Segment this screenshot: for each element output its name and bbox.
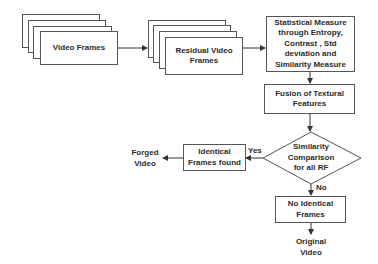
video-frames-label: Video Frames xyxy=(53,43,105,54)
video-frames-node: Video Frames xyxy=(40,31,118,65)
decision-line-1: Similarity xyxy=(276,142,346,153)
statistical-line-3: Contrast , Std xyxy=(284,39,336,50)
original-video-output: Original Video xyxy=(290,237,332,258)
decision-line-3: for all RF xyxy=(276,163,346,174)
fusion-line-2: Features xyxy=(293,99,326,110)
statistical-line-2: through Entropy, xyxy=(278,28,342,39)
identical-line-1: Identical xyxy=(198,147,230,158)
no-identical-line-2: Frames xyxy=(296,210,324,221)
residual-line-2: Frames xyxy=(190,56,218,67)
decision-line-2: Comparison xyxy=(276,153,346,164)
residual-video-frames-node: Residual Video Frames xyxy=(165,37,243,75)
fusion-node: Fusion of Textural Features xyxy=(264,84,355,114)
no-edge-label: No xyxy=(316,183,327,194)
original-line-2: Video xyxy=(290,248,332,259)
identical-frames-node: Identical Frames found xyxy=(183,144,246,171)
forged-video-output: Forged Video xyxy=(128,148,162,169)
forged-line-1: Forged xyxy=(128,148,162,159)
fusion-line-1: Fusion of Textural xyxy=(275,89,344,100)
statistical-line-1: Statistical Measure xyxy=(274,18,346,29)
no-identical-frames-node: No Identical Frames xyxy=(275,196,346,223)
original-line-1: Original xyxy=(290,237,332,248)
yes-edge-label: Yes xyxy=(248,146,262,157)
decision-node-label: Similarity Comparison for all RF xyxy=(276,142,346,174)
no-identical-line-1: No Identical xyxy=(288,199,333,210)
identical-line-2: Frames found xyxy=(188,158,241,169)
statistical-line-5: Similarity Measure xyxy=(275,60,346,71)
statistical-line-4: deviation and xyxy=(285,49,337,60)
residual-line-1: Residual Video xyxy=(175,46,232,57)
forged-line-2: Video xyxy=(128,159,162,170)
statistical-measure-node: Statistical Measure through Entropy, Con… xyxy=(266,16,355,72)
